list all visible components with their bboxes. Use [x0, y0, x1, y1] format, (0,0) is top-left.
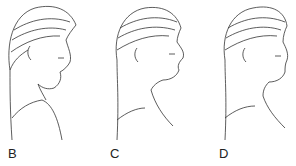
figure-c: C: [105, 0, 205, 166]
figure-b: B: [0, 0, 100, 166]
head-profile-d-drawing: [215, 0, 296, 166]
figure-label-d: D: [219, 146, 228, 161]
figure-d: D: [215, 0, 296, 166]
head-profile-c-drawing: [105, 0, 205, 166]
figure-label-c: C: [110, 146, 119, 161]
figure-label-b: B: [8, 146, 17, 161]
head-profile-b-drawing: [0, 0, 100, 166]
